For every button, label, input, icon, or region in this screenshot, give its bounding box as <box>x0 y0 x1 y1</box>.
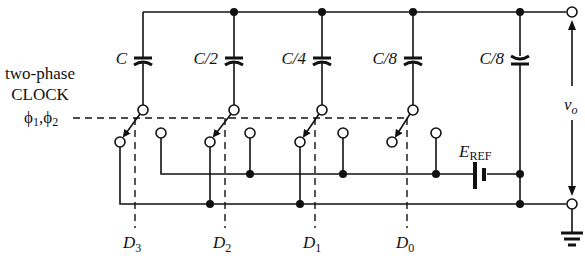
reference-battery <box>475 162 484 189</box>
switch-pole <box>408 105 418 115</box>
bit-label-d0: D0 <box>395 233 414 255</box>
ground-icon <box>561 209 583 245</box>
clock-label-line1: two-phase <box>5 64 75 83</box>
junction-node <box>206 200 214 208</box>
capacitor-c-8 <box>404 58 422 105</box>
output-terminal-bottom <box>567 199 577 209</box>
switch-throw-ground <box>387 137 397 147</box>
junction-node <box>296 200 304 208</box>
dac-circuit-diagram: C C/2 C/4 C/8 C/8 EREF <box>0 0 585 256</box>
bit-label-d2: D2 <box>212 233 231 255</box>
bit-label-d3: D3 <box>122 233 141 255</box>
capacitor-c <box>134 58 152 105</box>
switch-throw-ground <box>295 137 305 147</box>
ground-rail <box>120 147 577 209</box>
junction-node <box>516 170 524 178</box>
junction-node <box>318 8 326 16</box>
switch-throw-ref <box>338 128 348 138</box>
junction-node <box>516 8 524 16</box>
junction-node <box>409 8 417 16</box>
clock-phase-label: ϕ1,ϕ2 <box>24 108 58 129</box>
capacitor-c-2 <box>225 58 243 105</box>
capacitor-label: C/2 <box>193 49 218 68</box>
switch-throw-ground <box>115 137 125 147</box>
capacitor-label: C/8 <box>479 49 504 68</box>
switch-throw-ref <box>431 128 441 138</box>
switch-throw-ref <box>245 128 255 138</box>
switch-pole <box>317 105 327 115</box>
switch-throw-ground <box>205 137 215 147</box>
capacitor-label: C <box>116 49 128 68</box>
junction-node <box>246 170 254 178</box>
junction-node <box>339 170 347 178</box>
capacitor-label: C/4 <box>281 49 306 68</box>
switch-throw-ref <box>156 128 166 138</box>
capacitor-label: C/8 <box>372 49 397 68</box>
junction-node <box>230 8 238 16</box>
output-terminal-top <box>567 7 577 17</box>
reference-label: EREF <box>458 142 492 163</box>
bit-label-d1: D1 <box>302 233 321 255</box>
junction-node <box>432 170 440 178</box>
capacitor-c-8-termination <box>511 56 529 204</box>
clock-label-line2: CLOCK <box>11 85 69 104</box>
switch-pole <box>229 105 239 115</box>
capacitor-c-4 <box>313 58 331 105</box>
switch-pole <box>138 105 148 115</box>
junction-node <box>516 200 524 208</box>
clock-control-lines <box>73 118 408 228</box>
output-voltage-label: vo <box>564 95 578 117</box>
